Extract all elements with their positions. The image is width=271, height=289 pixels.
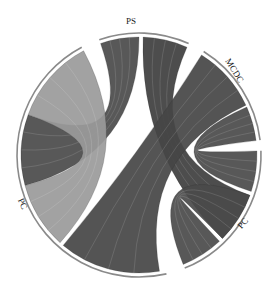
label-pc-left: PC (16, 197, 30, 211)
label-ps: PS (126, 16, 136, 26)
chord-diagram: PS MCDC PC PC (0, 0, 271, 289)
chord-links (21, 37, 257, 273)
